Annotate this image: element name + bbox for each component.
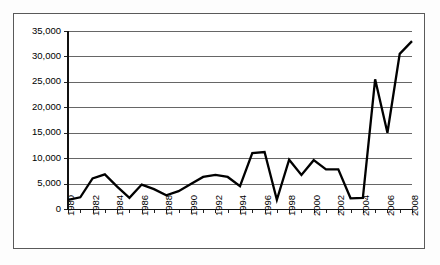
chart-plot-svg: 05,00010,00015,00020,00025,00030,00035,0… — [0, 0, 440, 265]
x-axis-tick-label: 2006 — [385, 195, 396, 216]
x-axis-tick-label: 1994 — [237, 195, 248, 216]
x-axis-tick-label: 1984 — [114, 195, 125, 216]
x-axis-tick-label: 2008 — [409, 195, 420, 216]
x-axis-tick-label: 2000 — [311, 195, 322, 216]
y-axis-tick-label: 5,000 — [37, 177, 61, 188]
x-axis-tick-label: 1986 — [139, 195, 150, 216]
y-axis-tick-label: 10,000 — [32, 152, 61, 163]
x-axis-tick-label: 1982 — [90, 195, 101, 216]
chart-root: 05,00010,00015,00020,00025,00030,00035,0… — [0, 0, 440, 265]
x-axis-tick-label: 1990 — [188, 195, 199, 216]
y-axis-tick-label: 20,000 — [32, 101, 61, 112]
gridlines-group — [68, 32, 412, 185]
y-axis-tick-label: 25,000 — [32, 75, 61, 86]
x-axis-tick-label: 1998 — [286, 195, 297, 216]
y-axis-tick-label: 15,000 — [32, 126, 61, 137]
y-axis-tick-label: 35,000 — [32, 25, 61, 36]
data-series-line — [68, 41, 412, 200]
y-axis-tick-label: 0 — [56, 203, 61, 214]
x-axis-labels-group: 1980198219841986198819901992199419961998… — [65, 195, 420, 216]
y-axis-tick-label: 30,000 — [32, 50, 61, 61]
x-axis-tick-label: 1988 — [163, 195, 174, 216]
x-axis-tick-label: 1992 — [213, 195, 224, 216]
x-axis-tick-label: 2002 — [335, 195, 346, 216]
x-axis-tick-label: 1996 — [262, 195, 273, 216]
y-axis-labels-group: 05,00010,00015,00020,00025,00030,00035,0… — [32, 25, 61, 214]
